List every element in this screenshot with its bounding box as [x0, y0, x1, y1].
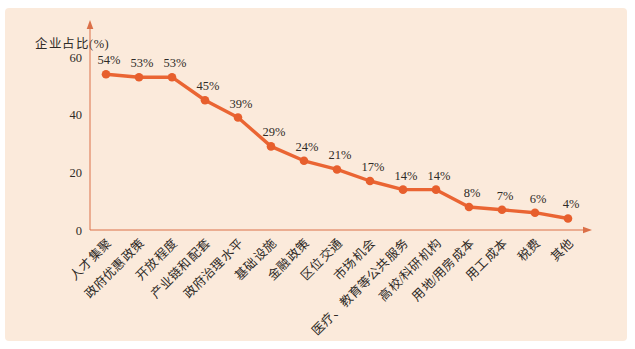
value-label: 14% [395, 169, 418, 183]
value-label: 7% [497, 189, 514, 203]
data-point-marker [432, 185, 441, 194]
y-tick-label: 40 [70, 108, 83, 122]
y-axis-arrow [87, 20, 94, 29]
data-point-marker [300, 157, 309, 166]
data-point-marker [102, 70, 111, 79]
y-tick-label: 20 [70, 166, 83, 180]
x-tick-label: 其他 [548, 236, 576, 264]
value-label: 14% [428, 169, 451, 183]
data-point-marker [201, 96, 210, 105]
y-tick-label: 0 [76, 224, 82, 238]
value-label: 45% [197, 79, 220, 93]
data-point-marker [333, 165, 342, 174]
value-label: 29% [263, 125, 286, 139]
data-point-marker [399, 185, 408, 194]
data-point-marker [366, 177, 375, 186]
value-label: 24% [296, 140, 319, 154]
chart-panel: 企业占比(%) 020406054%人才集聚53%政府优惠政策53%开放程度45… [5, 8, 627, 341]
figure: 企业占比(%) 020406054%人才集聚53%政府优惠政策53%开放程度45… [0, 0, 635, 349]
data-point-marker [465, 203, 474, 212]
value-label: 21% [329, 148, 352, 162]
x-tick-label: 税费 [515, 236, 543, 264]
value-label: 4% [563, 197, 580, 211]
data-point-marker [234, 113, 243, 122]
data-point-marker [564, 214, 573, 223]
value-label: 8% [464, 186, 481, 200]
x-axis-arrow [583, 227, 592, 234]
y-tick-label: 60 [70, 51, 83, 65]
line-chart: 020406054%人才集聚53%政府优惠政策53%开放程度45%产业链和配套3… [5, 8, 627, 341]
data-point-marker [135, 73, 144, 82]
value-label: 39% [230, 97, 253, 111]
data-point-marker [498, 206, 507, 215]
value-label: 53% [164, 56, 187, 70]
data-point-marker [168, 73, 177, 82]
data-point-marker [531, 208, 540, 217]
value-label: 53% [131, 56, 154, 70]
value-label: 54% [98, 53, 121, 67]
value-label: 17% [362, 160, 385, 174]
value-label: 6% [530, 192, 547, 206]
data-point-marker [267, 142, 276, 151]
